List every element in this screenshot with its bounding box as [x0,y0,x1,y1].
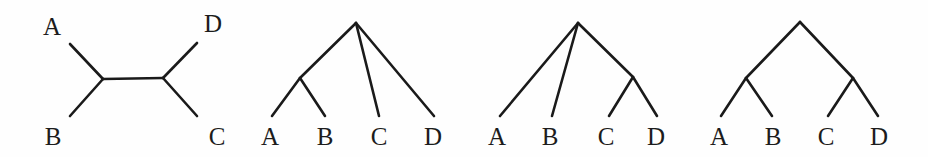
tree-rooted-balanced-edge-C [828,78,853,116]
tree-unrooted-edge-C [163,78,197,116]
tree-rooted-ab-tip-label-d: D [424,123,442,150]
tree-rooted-cd-tip-label-c: C [598,123,615,150]
trees-group [70,22,878,116]
tree-rooted-cd-edge-root-cd [578,23,633,77]
tree-rooted-ab-edge-A [272,78,300,116]
tree-rooted-ab-edge-B [300,78,325,116]
tree-unrooted-edge-A [70,44,103,79]
tree-rooted-balanced-edge-B [746,78,772,116]
tree-rooted-balanced-edge-root-cd [800,22,853,78]
tree-rooted-balanced-tip-label-c: C [818,123,835,150]
tree-rooted-ab [272,23,434,116]
tree-rooted-balanced-labels: ABCD [710,123,888,150]
tree-rooted-balanced-tip-label-d: D [870,123,888,150]
tree-rooted-ab-tip-label-a: A [261,123,279,150]
tree-unrooted-edge-B [70,79,103,116]
tree-unrooted [70,43,197,116]
tree-canvas: ABDCABCDABCDABCD [0,0,928,157]
tree-rooted-cd-tip-label-a: A [488,123,506,150]
tree-rooted-ab-tip-label-b: B [317,123,334,150]
tree-rooted-cd-tip-label-d: D [647,123,665,150]
tree-rooted-balanced [721,22,878,116]
labels-group: ABDCABCDABCDABCD [43,10,888,150]
tree-rooted-cd-edge-C [609,77,633,116]
tree-rooted-balanced-edge-root-ab [746,22,800,78]
tree-unrooted-tip-label-b: B [45,123,62,150]
tree-rooted-balanced-tip-label-a: A [710,123,728,150]
tree-rooted-ab-labels: ABCD [261,123,442,150]
tree-unrooted-labels: ABDC [43,10,225,150]
tree-unrooted-tip-label-d: D [204,10,222,37]
phylogenetic-tree-figure: ABDCABCDABCDABCD [0,0,928,157]
tree-rooted-cd-labels: ABCD [488,123,665,150]
tree-unrooted-edge-D [163,43,197,78]
tree-rooted-ab-edge-root-ab [300,23,356,78]
tree-rooted-cd-edge-D [633,77,657,116]
tree-rooted-balanced-edge-A [721,78,746,116]
tree-unrooted-tip-label-a: A [43,13,61,40]
tree-rooted-cd [500,23,657,116]
tree-unrooted-tip-label-c: C [209,123,226,150]
tree-unrooted-edge-internal [103,78,163,79]
tree-rooted-balanced-tip-label-b: B [765,123,782,150]
tree-rooted-ab-tip-label-c: C [371,123,388,150]
tree-rooted-cd-tip-label-b: B [542,123,559,150]
tree-rooted-balanced-edge-D [853,78,878,116]
